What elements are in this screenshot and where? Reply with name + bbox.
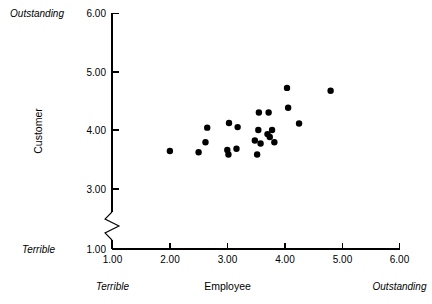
x-tick-label-4: 4.00 [275, 254, 295, 265]
scatter-chart: 6.00 5.00 4.00 3.00 1.00 1.00 2.00 3.00 … [0, 0, 432, 304]
x-axis [112, 243, 400, 249]
y-tick-label-1: 1.00 [87, 244, 107, 255]
data-point [256, 109, 262, 115]
x-anchor-low-label: Terrible [96, 281, 129, 292]
data-point [204, 124, 210, 130]
y-tick-label-3: 3.00 [87, 184, 107, 195]
data-point [284, 85, 290, 91]
x-tick-label-3: 3.00 [218, 254, 238, 265]
data-point [265, 109, 271, 115]
data-point [225, 151, 231, 157]
data-point [269, 127, 275, 133]
data-point [271, 139, 277, 145]
data-points-layer [167, 85, 334, 158]
x-tick-label-2: 2.00 [160, 254, 180, 265]
data-point [327, 88, 333, 94]
x-tick-label-6: 6.00 [390, 254, 410, 265]
data-point [234, 124, 240, 130]
x-axis-title: Employee [204, 280, 251, 292]
data-point [202, 139, 208, 145]
data-point [267, 134, 273, 140]
x-tick-labels: 1.00 2.00 3.00 4.00 5.00 6.00 [103, 254, 410, 265]
data-point [255, 127, 261, 133]
x-tick-label-5: 5.00 [333, 254, 353, 265]
y-anchor-low-label: Terrible [22, 244, 55, 255]
x-tick-label-1: 1.00 [103, 254, 123, 265]
x-anchor-high-label: Outstanding [373, 281, 427, 292]
data-point [254, 151, 260, 157]
y-tick-label-6: 6.00 [87, 8, 107, 19]
data-point [233, 146, 239, 152]
y-axis-title: Customer [32, 108, 44, 154]
data-point [296, 120, 302, 126]
data-point [167, 148, 173, 154]
y-axis-break-symbol [105, 212, 119, 240]
data-point [257, 140, 263, 146]
y-tick-label-5: 5.00 [87, 67, 107, 78]
data-point [285, 105, 291, 111]
data-point [252, 137, 258, 143]
chart-canvas: 6.00 5.00 4.00 3.00 1.00 1.00 2.00 3.00 … [0, 0, 432, 304]
data-point [195, 149, 201, 155]
data-point [226, 120, 232, 126]
y-axis [105, 13, 119, 249]
y-tick-label-4: 4.00 [87, 125, 107, 136]
y-anchor-high-label: Outstanding [10, 8, 64, 19]
y-tick-labels: 6.00 5.00 4.00 3.00 1.00 [87, 8, 107, 255]
